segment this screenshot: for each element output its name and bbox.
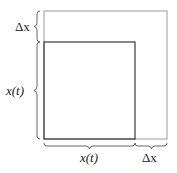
bottom-xt-label: x(t) xyxy=(80,150,98,166)
left-delta-brace xyxy=(34,11,40,42)
top-left-delta-label: Δx xyxy=(15,19,30,35)
outer-square xyxy=(44,11,167,139)
bottom-xt-brace xyxy=(44,143,135,149)
left-xt-label: x(t) xyxy=(6,83,24,99)
bottom-delta-label: Δx xyxy=(142,150,157,166)
inner-square xyxy=(44,42,135,139)
left-xt-brace xyxy=(34,42,40,139)
bottom-delta-brace xyxy=(135,143,167,149)
